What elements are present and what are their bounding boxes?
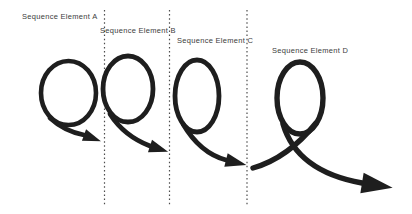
loop-arrow-d-arrowhead-icon [360, 173, 394, 199]
loop-arrow-c-arrowhead-icon [224, 153, 248, 172]
loop-arrow-a-arrowhead-icon [82, 129, 103, 146]
sequence-spiral-figure [0, 0, 412, 214]
label-sequence-element-b: Sequence Element B [100, 26, 176, 35]
label-sequence-element-c: Sequence Element C [177, 36, 253, 45]
loop-arrow-a-loop [41, 61, 96, 125]
loop-arrow-b-arrowhead-icon [148, 140, 170, 158]
loop-arrow-c-loop [175, 60, 219, 132]
label-sequence-element-a: Sequence Element A [22, 12, 97, 21]
loop-arrow-b-exit [110, 114, 150, 146]
label-sequence-element-d: Sequence Element D [272, 46, 348, 55]
diagram-canvas: Sequence Element A Sequence Element B Se… [0, 0, 412, 214]
